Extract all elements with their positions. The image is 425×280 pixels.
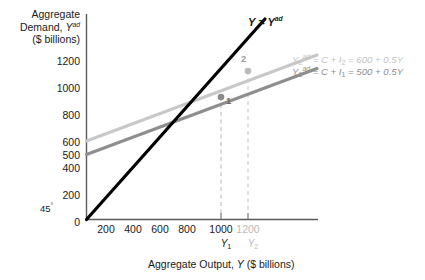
y-axis-title-line2: Demand, Yad [6,21,80,34]
ad1-equation-mid: = C + I [310,66,341,77]
ad2-equation-label: Y2ad = C + I2 = 600 + 0.5Y [292,54,403,65]
ad2-equation-mid: = C + I [310,54,341,65]
x-axis-title-variable: Y [237,258,244,270]
equilibrium-point-2-label: 2 [241,53,246,64]
y-axis-title-line2-text: Demand, [20,21,66,33]
y-axis-title-superscript: ad [72,20,80,27]
ad2-superscript: ad [302,53,310,60]
equilibrium-output-label-2: Y2 [233,238,273,249]
aggregate-demand-line-1 [87,69,318,155]
equilibrium-point-1-label: 1 [226,95,231,106]
angle-45-label: 45° [40,203,53,214]
x-axis-title-post: ($ billions) [244,258,295,270]
y1-subscript: 1 [227,242,231,251]
identity-line-label: Y = Yad [248,16,283,29]
keynesian-cross-chart: Aggregate Demand, Yad ($ billions) 1200 … [0,0,425,280]
angle-45-value: 45 [40,203,51,214]
identity-line-superscript: ad [275,15,283,22]
y2-subscript: 2 [254,242,258,251]
y-tick-label-600: 600 [38,136,80,148]
degree-symbol-icon: ° [51,202,54,209]
x-tick-label-1200: 1200 [228,223,268,235]
ad1-superscript: ad [302,65,310,72]
x-axis-title-pre: Aggregate Output, [148,258,237,270]
y-axis-title-line3: ($ billions) [6,33,80,46]
identity-line-text: Y = Y [248,16,275,28]
y-axis-title: Aggregate Demand, Yad ($ billions) [6,8,80,46]
ad2-equation-tail: = 600 + 0.5Y [345,54,403,65]
y-tick-label-200: 200 [38,189,80,201]
y-tick-label-0: 0 [38,216,80,228]
y-tick-label-800: 800 [38,109,80,121]
y-tick-label-500: 500 [38,149,80,161]
ad1-equation-label: Y1ad = C + I1 = 500 + 0.5Y [292,66,403,77]
y-tick-label-1000: 1000 [38,82,80,94]
x-axis-title: Aggregate Output, Y ($ billions) [148,258,295,270]
equilibrium-point-1-marker [218,94,225,101]
y-axis-title-line1: Aggregate [6,8,80,21]
equilibrium-point-2-marker [245,68,252,75]
y-tick-label-1200: 1200 [38,55,80,67]
y-tick-label-400: 400 [38,162,80,174]
aggregate-demand-line-2 [87,55,318,141]
ad1-equation-tail: = 500 + 0.5Y [345,66,403,77]
identity-line-45 [87,19,266,220]
